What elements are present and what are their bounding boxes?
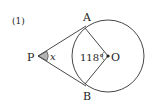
tangent-pb [38,56,86,86]
problem-number: (1) [12,16,25,26]
label-angle-x: x [50,51,56,62]
label-o: O [111,51,120,64]
center-point-o [106,54,109,57]
label-b: B [83,90,91,103]
label-p: P [27,51,35,64]
label-angle-aob: 118° [80,52,104,63]
tangent-pa [38,26,86,56]
geometry-diagram: (1) P x A B O 118° [0,0,154,106]
label-a: A [82,11,92,24]
